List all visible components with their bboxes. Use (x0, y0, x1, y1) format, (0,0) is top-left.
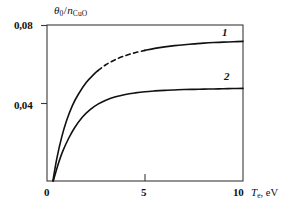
curve-label-2: 2 (224, 70, 230, 82)
y-tick-label-mid: 0,04 (14, 99, 32, 111)
y-axis-title: θ0/nCuO (54, 4, 87, 18)
x-tick-label-0: 0 (44, 186, 49, 198)
data-curves (53, 41, 243, 181)
curve-2 (53, 88, 243, 181)
figure-container: θ0/nCuO Te, eV 0,08 0,04 0 5 10 1 2 (0, 0, 302, 218)
axis-frame-box (47, 25, 243, 181)
curve-1-solid-upper (145, 41, 243, 50)
y-axis-ticks (41, 26, 47, 104)
x-tick-label-5: 5 (141, 186, 146, 198)
x-axis-title: Te, eV (251, 186, 278, 200)
curve-label-1: 1 (222, 26, 228, 38)
x-tick-label-10: 10 (233, 186, 244, 198)
y-axis-n-sub: CuO (73, 9, 87, 18)
axis-frame (47, 25, 243, 181)
curve-1-dashed (98, 50, 145, 70)
y-tick-label-top: 0,08 (14, 19, 32, 31)
x-axis-unit: , eV (260, 187, 278, 198)
